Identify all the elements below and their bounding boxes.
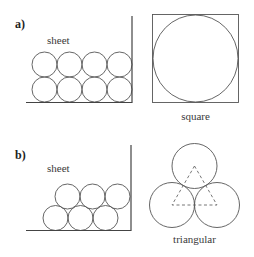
circle	[32, 52, 57, 77]
circle	[107, 52, 132, 77]
packing-diagram: a) sheet square b) sheet	[0, 0, 254, 257]
circle	[82, 77, 107, 102]
circle	[55, 184, 80, 209]
triangular-packing-circles	[43, 184, 130, 231]
circle	[43, 206, 68, 231]
panel-a-container-wall	[26, 16, 132, 103]
circle	[93, 206, 118, 231]
square-cell-circle	[153, 15, 238, 102]
circle	[80, 184, 105, 209]
triangular-label: triangular	[173, 233, 216, 245]
circle	[57, 52, 82, 77]
square-packing-circles	[32, 52, 132, 102]
circle	[68, 206, 93, 231]
panel-a-label: a)	[15, 17, 25, 31]
panel-b-container-wall	[26, 145, 131, 231]
circle	[105, 184, 130, 209]
circle	[107, 77, 132, 102]
panel-a: a) sheet square	[15, 15, 239, 123]
triangular-cell	[150, 144, 240, 228]
circle	[32, 77, 57, 102]
panel-a-sheet-label: sheet	[47, 34, 70, 46]
square-label: square	[181, 110, 210, 122]
circle	[82, 52, 107, 77]
panel-b-label: b)	[15, 148, 26, 162]
circle	[57, 77, 82, 102]
dashed-triangle	[172, 166, 217, 205]
panel-b-sheet-label: sheet	[47, 162, 70, 174]
panel-b: b) sheet triangular	[15, 144, 240, 246]
